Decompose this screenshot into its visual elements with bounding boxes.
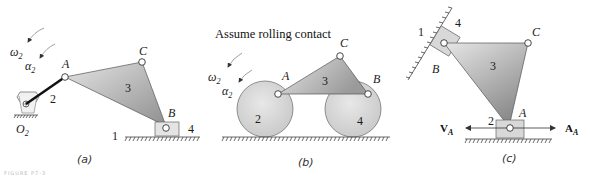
pin-c-c: [525, 40, 532, 47]
ground-hatch-c2: [465, 139, 551, 143]
link-3-label: 3: [125, 81, 131, 95]
link-2-label: 2: [50, 92, 56, 106]
panel-c: 1 4 3 B C A 2 VA AA (c): [406, 7, 579, 165]
point-b-label-c: B: [432, 62, 440, 76]
link-3-triangle-c: [444, 43, 528, 127]
pin-b-b: [365, 91, 372, 98]
point-a-label-b: A: [281, 69, 290, 83]
link-4-label-c: 4: [455, 16, 461, 30]
pin-a: [62, 74, 69, 81]
pin-b: [163, 125, 170, 132]
link-3-label-b: 3: [322, 74, 328, 88]
alpha-label-b: α2: [222, 84, 232, 100]
panel-b: Assume rolling contact ω2 α2 2 4 3 A C B…: [208, 27, 390, 169]
caption-a: (a): [77, 153, 92, 166]
point-b-label: B: [168, 106, 176, 120]
point-a-label: A: [61, 57, 70, 71]
point-a-label-c: A: [518, 106, 527, 120]
va-label: VA: [440, 122, 454, 137]
alpha-arrow-icon: [239, 70, 252, 82]
point-b-label-b: B: [373, 72, 381, 86]
link-4-label: 4: [188, 122, 194, 136]
pin-c-b: [337, 53, 344, 60]
ground-hatch-o2: [14, 115, 37, 118]
o2-label: O2: [16, 122, 29, 138]
pin-c: [139, 59, 146, 66]
arrow-left-icon: [465, 125, 471, 131]
panel-a: ω2 α2 O2 2 3 A C B 4 1 (a): [10, 28, 200, 166]
caption-b: (b): [298, 156, 314, 169]
mechanism-figure: ω2 α2 O2 2 3 A C B 4 1 (a): [0, 0, 590, 180]
link-2-label-c: 2: [488, 114, 494, 128]
figure-footer: FIGURE P7-3: [4, 170, 46, 176]
ground-1-label-c: 1: [418, 25, 424, 39]
omega-arrow-icon: [28, 28, 44, 42]
caption-c: (c): [502, 152, 517, 165]
point-c-label-b: C: [340, 36, 349, 50]
wheel-2-label: 2: [255, 112, 261, 126]
pin-b-c: [441, 40, 448, 47]
point-c-label-c: C: [532, 25, 541, 39]
alpha-label: α2: [25, 59, 35, 75]
point-c-label: C: [139, 44, 148, 58]
link-2: [26, 77, 65, 104]
arrow-right-icon: [550, 125, 556, 131]
pin-a-b: [275, 91, 282, 98]
wheel-2: [237, 81, 293, 137]
pin-a-c: [507, 125, 514, 132]
link-3-triangle: [65, 62, 166, 126]
ground-hatch-b: [222, 137, 388, 141]
alpha-arrow-icon: [40, 44, 55, 58]
aa-label: AA: [565, 122, 579, 137]
omega-label: ω2: [10, 45, 22, 61]
omega-arrow-icon: [228, 53, 242, 67]
ground-hatch-a: [125, 137, 199, 141]
panel-b-title: Assume rolling contact: [215, 27, 331, 41]
ground-1-label: 1: [112, 129, 118, 143]
wheel-4-label: 4: [357, 114, 363, 128]
link-3-label-c: 3: [490, 59, 496, 73]
omega-label-b: ω2: [208, 70, 220, 86]
